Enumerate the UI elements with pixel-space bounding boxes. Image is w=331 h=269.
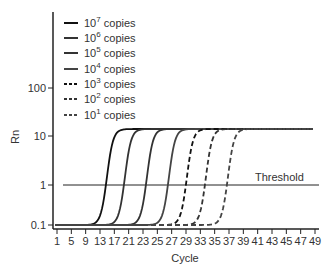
x-tick-label: 47	[295, 235, 307, 247]
svg-text:104 copies: 104 copies	[84, 61, 136, 75]
x-tick-label: 45	[280, 235, 292, 247]
legend: 107 copies 106 copies 105 copies 104 cop…	[64, 15, 136, 121]
legend-item: 106 copies	[64, 30, 136, 44]
svg-text:103 copies: 103 copies	[84, 76, 136, 90]
x-tick-label: 13	[94, 235, 106, 247]
x-tick-label: 17	[108, 235, 120, 247]
y-tick-label: 10	[34, 130, 46, 142]
x-tick-label: 43	[266, 235, 278, 247]
x-tick-label: 33	[194, 235, 206, 247]
svg-text:106 copies: 106 copies	[84, 30, 136, 44]
x-tick-label: 21	[123, 235, 135, 247]
legend-item: 105 copies	[64, 45, 136, 59]
legend-item: 102 copies	[64, 91, 136, 105]
x-tick-label: 5	[68, 235, 74, 247]
x-tick-label: 49	[309, 235, 321, 247]
y-tick-label: 0.1	[31, 219, 46, 231]
legend-item: 104 copies	[64, 61, 136, 75]
x-axis-title: Cycle	[171, 252, 199, 264]
y-tick-label: 1	[40, 179, 46, 191]
y-tick-label: 100	[28, 82, 46, 94]
svg-text:107 copies: 107 copies	[84, 15, 136, 29]
amplification-chart: 100 10 1 0.1 159131721232527293335373941…	[0, 0, 331, 269]
y-ticks: 100 10 1 0.1	[28, 82, 53, 231]
x-ticks: 15913172123252729333537394143454749	[54, 229, 321, 247]
x-tick-label: 23	[137, 235, 149, 247]
svg-text:105 copies: 105 copies	[84, 45, 136, 59]
y-axis-title: Rn	[9, 130, 21, 144]
x-tick-label: 29	[180, 235, 192, 247]
x-tick-label: 25	[151, 235, 163, 247]
x-tick-label: 41	[252, 235, 264, 247]
legend-item: 103 copies	[64, 76, 136, 90]
legend-item: 101 copies	[64, 107, 136, 121]
svg-text:101 copies: 101 copies	[84, 107, 136, 121]
x-tick-label: 27	[166, 235, 178, 247]
x-tick-label: 39	[237, 235, 249, 247]
x-tick-label: 9	[83, 235, 89, 247]
x-tick-label: 37	[223, 235, 235, 247]
x-tick-label: 1	[54, 235, 60, 247]
x-tick-label: 35	[209, 235, 221, 247]
threshold-label: Threshold	[255, 171, 304, 183]
svg-text:102 copies: 102 copies	[84, 91, 136, 105]
legend-item: 107 copies	[64, 15, 136, 29]
